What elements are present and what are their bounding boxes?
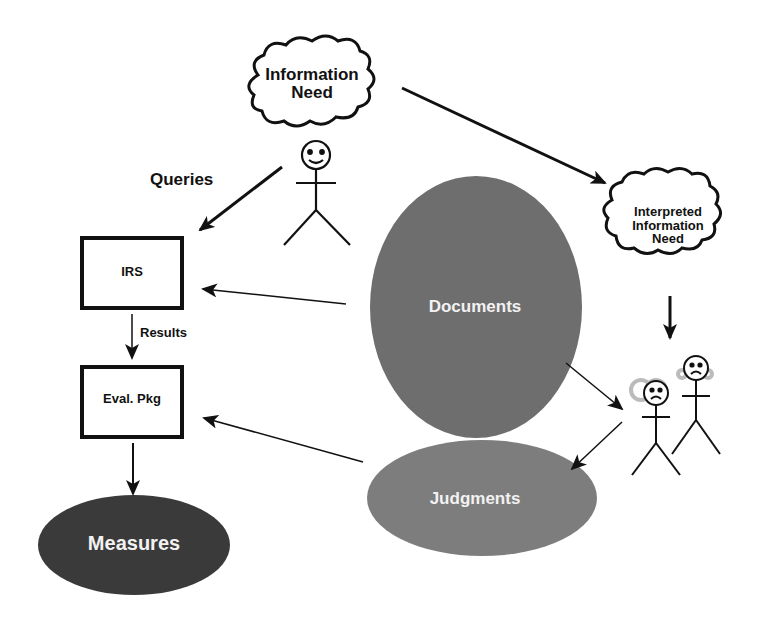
information-need-line2: Need — [246, 84, 378, 102]
interpreted-need-line2: Information — [612, 219, 724, 233]
measures-label: Measures — [38, 533, 230, 554]
documents-label: Documents — [400, 298, 550, 316]
judgments-label: Judgments — [400, 490, 550, 508]
assessor-stick-figure-2 — [672, 356, 720, 454]
arrow-judgments-to-eval — [204, 418, 363, 462]
arrow-need-to-interpreted — [402, 88, 605, 183]
user-stick-figure — [284, 141, 350, 245]
interpreted-need-line1: Interpreted — [612, 205, 724, 219]
information-need-label: Information Need — [246, 66, 378, 102]
arrow-documents-to-assessors — [566, 363, 622, 409]
interpreted-need-line3: Need — [612, 232, 724, 246]
information-need-line1: Information — [246, 66, 378, 84]
results-label: Results — [140, 326, 220, 340]
arrow-documents-to-irs — [203, 289, 346, 304]
arrow-assessors-to-judgments — [572, 422, 622, 469]
queries-label: Queries — [150, 171, 250, 189]
interpreted-need-label: Interpreted Information Need — [612, 205, 724, 246]
assessor-stick-figure-1 — [631, 380, 680, 475]
eval-pkg-label: Eval. Pkg — [82, 392, 182, 406]
irs-label: IRS — [82, 265, 182, 279]
